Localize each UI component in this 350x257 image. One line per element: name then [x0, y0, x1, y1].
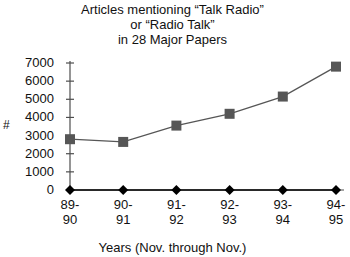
data-point-baseline — [278, 185, 288, 195]
x-tick-label: 89-90 — [44, 197, 96, 227]
x-axis-label: Years (Nov. through Nov.) — [0, 240, 345, 255]
data-point-baseline — [118, 185, 128, 195]
series-line-articles — [70, 67, 336, 142]
x-tick-label: 90-91 — [97, 197, 149, 227]
data-point-articles — [225, 109, 235, 119]
x-tick-label: 92-93 — [204, 197, 256, 227]
data-point-baseline — [65, 185, 75, 195]
data-point-articles — [65, 134, 75, 144]
data-point-baseline — [171, 185, 181, 195]
data-point-articles — [331, 62, 341, 72]
data-point-articles — [171, 121, 181, 131]
x-tick-label: 91-92 — [150, 197, 202, 227]
x-tick-label: 94-95 — [310, 197, 350, 227]
data-point-baseline — [331, 185, 341, 195]
x-tick-label: 93-94 — [257, 197, 309, 227]
data-point-baseline — [225, 185, 235, 195]
data-point-articles — [278, 92, 288, 102]
data-point-articles — [118, 137, 128, 147]
